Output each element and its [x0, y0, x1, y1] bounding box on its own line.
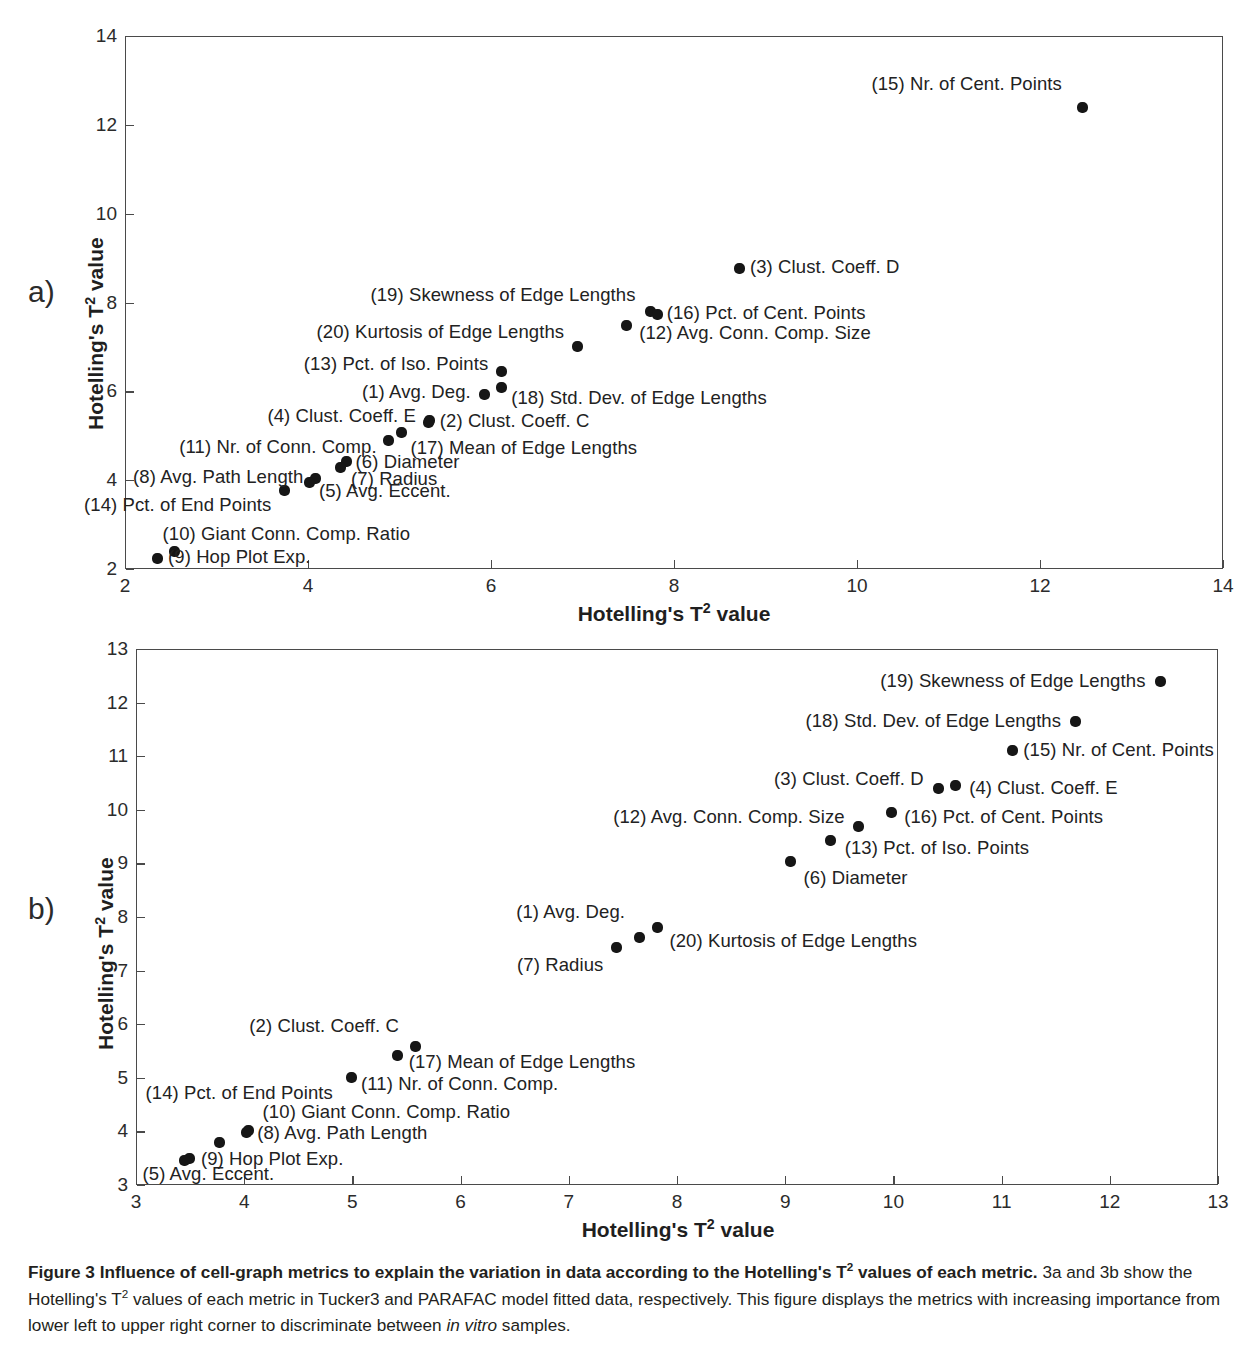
x-tick-label: 4 [239, 1191, 250, 1213]
y-tick [137, 917, 145, 918]
data-point-label: (3) Clust. Coeff. D [774, 768, 924, 790]
x-tick-label: 12 [1099, 1191, 1120, 1213]
y-tick [126, 36, 134, 37]
data-point [335, 462, 346, 473]
data-point [214, 1137, 225, 1148]
data-point [634, 932, 645, 943]
x-tick-label: 13 [1207, 1191, 1228, 1213]
data-point-label: (12) Avg. Conn. Comp. Size [613, 806, 845, 828]
data-point-label: (9) Hop Plot Exp. [168, 546, 311, 568]
data-point-label: (4) Clust. Coeff. E [969, 777, 1118, 799]
y-tick [137, 703, 145, 704]
y-tick [137, 863, 145, 864]
x-tick-label: 3 [131, 1191, 142, 1213]
x-tick [1040, 560, 1041, 568]
y-tick-label: 4 [73, 469, 117, 491]
data-point-label: (4) Clust. Coeff. E [267, 405, 416, 427]
data-point-label: (2) Clust. Coeff. C [440, 410, 590, 432]
data-point-label: (20) Kurtosis of Edge Lengths [669, 930, 917, 952]
x-tick [569, 1176, 570, 1184]
data-point-label: (20) Kurtosis of Edge Lengths [317, 321, 565, 343]
y-tick-label: 3 [84, 1174, 128, 1196]
data-point [1070, 716, 1081, 727]
data-point [950, 780, 961, 791]
x-tick-label: 8 [669, 575, 680, 597]
y-tick [137, 756, 145, 757]
data-point [304, 477, 315, 488]
y-tick-label: 12 [84, 692, 128, 714]
caption-body-3: samples. [497, 1315, 571, 1335]
y-tick [137, 1131, 145, 1132]
x-tick-label: 6 [486, 575, 497, 597]
y-tick-label: 13 [84, 638, 128, 660]
data-point-label: (2) Clust. Coeff. C [249, 1015, 399, 1037]
data-point [241, 1127, 252, 1138]
panel-b: b) 345678910111213345678910111213 (19) S… [0, 620, 1257, 1245]
x-tick [125, 560, 126, 568]
data-point [825, 835, 836, 846]
data-point-label: (14) Pct. of End Points [84, 494, 271, 516]
panel-a: a) 24681012142468101214 (15) Nr. of Cent… [0, 0, 1257, 640]
data-point [1077, 102, 1088, 113]
x-tick [461, 1176, 462, 1184]
y-tick [126, 303, 134, 304]
data-point-label: (10) Giant Conn. Comp. Ratio [163, 523, 411, 545]
y-tick-label: 10 [73, 203, 117, 225]
data-point-label: (5) Avg. Eccent. [319, 480, 451, 502]
y-tick-label: 12 [73, 114, 117, 136]
data-point-label: (15) Nr. of Cent. Points [1023, 739, 1214, 761]
y-tick [137, 1024, 145, 1025]
data-point-label: (11) Nr. of Conn. Comp. [361, 1073, 558, 1095]
data-point [652, 309, 663, 320]
figure-caption: Figure 3 Influence of cell-graph metrics… [28, 1258, 1233, 1338]
data-point-label: (16) Pct. of Cent. Points [904, 806, 1103, 828]
y-tick [126, 391, 134, 392]
figure-3: a) 24681012142468101214 (15) Nr. of Cent… [0, 0, 1257, 1348]
data-point-label: (19) Skewness of Edge Lengths [880, 670, 1145, 692]
x-tick-label: 2 [120, 575, 131, 597]
y-tick-label: 11 [84, 745, 128, 767]
caption-italic-term: in vitro [446, 1315, 497, 1335]
y-tick-label: 10 [84, 799, 128, 821]
x-tick [674, 560, 675, 568]
y-tick [137, 1078, 145, 1079]
x-tick-label: 9 [780, 1191, 791, 1213]
caption-lead: Figure 3 Influence of cell-graph metrics… [28, 1262, 1038, 1282]
x-tick-label: 14 [1212, 575, 1233, 597]
x-tick [785, 1176, 786, 1184]
caption-body-2: values of each metric in Tucker3 and PAR… [28, 1289, 1220, 1335]
data-point-label: (10) Giant Conn. Comp. Ratio [263, 1101, 511, 1123]
data-point [1155, 676, 1166, 687]
x-tick-label: 11 [992, 1191, 1012, 1213]
data-point-label: (13) Pct. of Iso. Points [304, 353, 488, 375]
x-tick [1223, 560, 1224, 568]
data-point-label: (18) Std. Dev. of Edge Lengths [805, 710, 1061, 732]
data-point-label: (19) Skewness of Edge Lengths [370, 284, 635, 306]
x-tick-label: 10 [846, 575, 867, 597]
data-point-label: (6) Diameter [804, 867, 908, 889]
data-point [152, 553, 163, 564]
x-tick [677, 1176, 678, 1184]
data-point-label: (8) Avg. Path Length [257, 1122, 427, 1144]
data-point-label: (12) Avg. Conn. Comp. Size [639, 322, 871, 344]
y-tick-label: 2 [73, 558, 117, 580]
data-point [424, 415, 435, 426]
panel-b-letter: b) [28, 892, 55, 926]
data-point-label: (11) Nr. of Conn. Comp. [179, 436, 376, 458]
y-tick [137, 649, 145, 650]
x-tick [1218, 1176, 1219, 1184]
y-axis-title-a: Hotelling's T2 value [82, 237, 108, 430]
x-axis-title-b: Hotelling's T2 value [582, 1216, 775, 1242]
data-point-label: (14) Pct. of End Points [146, 1082, 333, 1104]
x-tick-label: 4 [303, 575, 314, 597]
data-point [933, 783, 944, 794]
y-axis-title-b: Hotelling's T2 value [92, 857, 118, 1050]
x-tick-label: 12 [1029, 575, 1050, 597]
data-point [1007, 745, 1018, 756]
data-point-label: (3) Clust. Coeff. D [750, 256, 900, 278]
data-point [886, 807, 897, 818]
y-tick [137, 971, 145, 972]
x-tick [1110, 1176, 1111, 1184]
x-tick [352, 1176, 353, 1184]
x-tick [491, 560, 492, 568]
